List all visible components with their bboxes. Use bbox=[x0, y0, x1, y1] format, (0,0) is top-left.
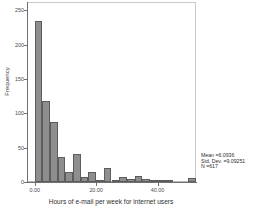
y-tick-mark bbox=[24, 113, 27, 114]
y-axis-title: Frequency bbox=[4, 52, 11, 112]
y-tick-mark bbox=[24, 45, 27, 46]
x-tick-mark bbox=[96, 183, 97, 186]
stat-n: N =617 bbox=[201, 164, 257, 170]
histogram-bar bbox=[104, 168, 112, 182]
x-tick-mark bbox=[158, 183, 159, 186]
x-tick-mark bbox=[35, 183, 36, 186]
y-tick-label: 0 bbox=[4, 179, 24, 185]
x-tick-label: 20.00 bbox=[81, 187, 111, 194]
y-tick-label: 250 bbox=[4, 7, 24, 13]
histogram-bar bbox=[58, 157, 66, 182]
x-axis-title: Hours of e-mail per week for internet us… bbox=[0, 197, 222, 206]
x-axis-line bbox=[27, 182, 197, 183]
histogram-bar bbox=[35, 21, 43, 182]
y-tick-label: 50 bbox=[4, 145, 24, 151]
x-tick-label: 0.00 bbox=[20, 187, 50, 194]
y-tick-mark bbox=[24, 182, 27, 183]
histogram-figure: 050100150200250 0.0020.0040.00 Frequency… bbox=[0, 0, 257, 212]
y-tick-mark bbox=[24, 79, 27, 80]
bars-area bbox=[27, 2, 196, 182]
y-tick-mark bbox=[24, 10, 27, 11]
histogram-bar bbox=[42, 101, 50, 182]
y-tick-mark bbox=[24, 148, 27, 149]
histogram-bar bbox=[50, 122, 58, 182]
x-tick-label: 40.00 bbox=[143, 187, 173, 194]
histogram-bar bbox=[88, 172, 96, 182]
statistics-annotation: Mean =6.0936 Std. Dev. =9.09251 N =617 bbox=[201, 153, 257, 170]
y-tick-label: 200 bbox=[4, 42, 24, 48]
y-axis-line bbox=[27, 2, 28, 183]
histogram-bar bbox=[73, 154, 81, 182]
histogram-bar bbox=[65, 172, 73, 182]
